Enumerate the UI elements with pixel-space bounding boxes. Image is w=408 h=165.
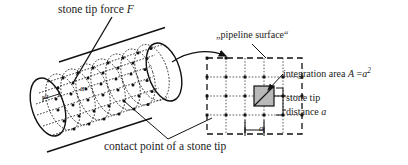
integration-area-exponent: 2 (367, 67, 371, 75)
force-symbol: F (127, 3, 134, 15)
distance-symbol: a (321, 106, 326, 117)
integration-area-text: integration area (283, 68, 345, 79)
pipeline-surface-text: „pipeline surface“ (216, 29, 288, 40)
label-stone-tip-force: stone tip force F (58, 4, 134, 16)
integration-area-symbol: A (348, 68, 354, 79)
pipeline-surface-leader (252, 44, 266, 58)
figure-stone-tip-pipeline: stone tip force F „pipeline surface“ int… (0, 0, 408, 165)
cylinder-right-cap (140, 39, 189, 106)
label-integration-area: integration area A =a2 (283, 68, 371, 79)
mesh-rings (39, 40, 175, 134)
label-dimension-a: a (259, 124, 264, 133)
mesh-longitudinal (36, 44, 169, 135)
distance-text: distance (286, 106, 319, 117)
vertical-dimension (274, 88, 286, 115)
force-leader-line (73, 17, 112, 83)
zoom-arrow (172, 52, 226, 62)
label-pipeline-surface: „pipeline surface“ (216, 30, 288, 40)
caption-leader (124, 101, 212, 139)
stone-tip-cell (254, 86, 274, 106)
label-cylinder-a-2: a (80, 84, 85, 93)
pipeline-cylinder (24, 28, 189, 153)
label-stone-tip: stone tip (286, 93, 320, 103)
caption-contact-point: contact point of a stone tip (104, 141, 226, 153)
label-distance-a: distance a (286, 107, 326, 117)
caption-text: contact point of a stone tip (104, 140, 226, 152)
label-cylinder-a-1: a (44, 92, 49, 101)
force-text: stone tip force (58, 3, 124, 15)
stone-tip-text: stone tip (286, 92, 320, 103)
